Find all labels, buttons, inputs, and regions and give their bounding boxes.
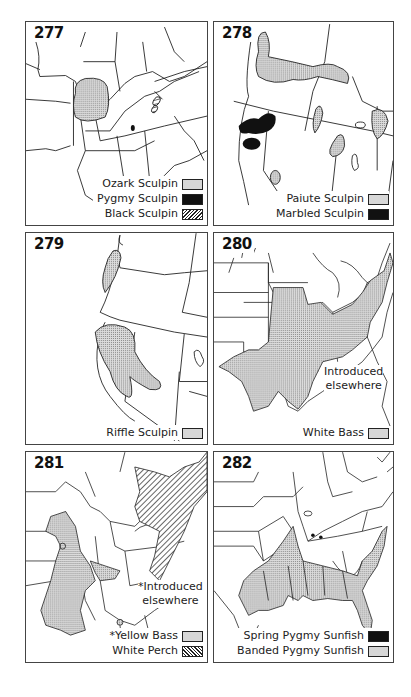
map-280 (214, 233, 393, 444)
solid-swatch-icon (182, 194, 203, 205)
map-panel-282: 282 Spring Pygmy Sunfish Banded Pygmy Su… (213, 451, 394, 663)
hatch-swatch-icon (182, 209, 203, 220)
solid-swatch-icon (368, 209, 389, 220)
legend-label: Pygmy Sculpin (97, 192, 178, 206)
legend-label: Paiute Sculpin (286, 192, 364, 206)
map-panel-277: 277 Ozark Sculpin Pygmy Sculpin Black Sc… (25, 21, 208, 226)
legend-item-black-sculpin: Black Sculpin (105, 207, 203, 221)
legend-item-paiute-sculpin: Paiute Sculpin (286, 192, 389, 206)
note-line: elsewhere (138, 594, 203, 608)
legend-label: *Yellow Bass (109, 629, 178, 643)
legend-item-yellow-bass: *Yellow Bass (109, 629, 203, 643)
map-number: 279 (32, 235, 66, 253)
map-number: 278 (220, 24, 254, 42)
legend-label: White Perch (112, 644, 178, 658)
legend-item-riffle-sculpin: Riffle Sculpin (106, 426, 203, 440)
stipple-swatch-icon (182, 428, 203, 439)
introduced-note: *Introduced elsewhere (138, 580, 203, 608)
legend-item-white-perch: White Perch (112, 644, 203, 658)
stipple-swatch-icon (182, 631, 203, 642)
legend: Ozark Sculpin Pygmy Sculpin Black Sculpi… (93, 176, 203, 221)
legend-label: Ozark Sculpin (102, 177, 178, 191)
map-panel-278: 278 Paiute Sculpin Marbled Sculpin (213, 21, 394, 226)
stipple-swatch-icon (368, 194, 389, 205)
legend: Paiute Sculpin Marbled Sculpin (272, 191, 389, 221)
hatch-swatch-icon (182, 646, 203, 657)
map-number: 277 (32, 24, 66, 42)
legend: *Yellow Bass White Perch (105, 628, 203, 658)
legend-item-ozark-sculpin: Ozark Sculpin (102, 177, 203, 191)
note-line: elsewhere (324, 379, 383, 393)
legend-item-marbled-sculpin: Marbled Sculpin (276, 207, 389, 221)
legend-label: Marbled Sculpin (276, 207, 364, 221)
legend-item-pygmy-sculpin: Pygmy Sculpin (97, 192, 203, 206)
note-line: Introduced (324, 365, 383, 379)
legend-label: Spring Pygmy Sunfish (244, 629, 364, 643)
map-panel-280: 280 Introduced elsewhere White Bass (213, 232, 394, 445)
introduced-note: Introduced elsewhere (324, 365, 383, 393)
legend-label: Black Sculpin (105, 207, 178, 221)
note-line: *Introduced (138, 580, 203, 594)
stipple-swatch-icon (368, 428, 389, 439)
map-number: 281 (32, 454, 66, 472)
legend-label: Riffle Sculpin (106, 426, 178, 440)
stipple-swatch-icon (182, 179, 203, 190)
legend-item-spring-pygmy-sunfish: Spring Pygmy Sunfish (244, 629, 389, 643)
legend: White Bass (299, 425, 389, 440)
legend-label: Banded Pygmy Sunfish (237, 644, 364, 658)
legend-item-white-bass: White Bass (303, 426, 389, 440)
map-number: 280 (220, 235, 254, 253)
stipple-swatch-icon (368, 646, 389, 657)
map-panel-279: 279 Riffle Sculpin (25, 232, 208, 445)
legend-item-banded-pygmy-sunfish: Banded Pygmy Sunfish (237, 644, 389, 658)
legend: Riffle Sculpin (102, 425, 203, 440)
map-panel-281: 281 *Introduced elsewhere *Yellow Bass W… (25, 451, 208, 663)
legend: Spring Pygmy Sunfish Banded Pygmy Sunfis… (233, 628, 389, 658)
map-279 (26, 233, 207, 444)
solid-swatch-icon (368, 631, 389, 642)
map-number: 282 (220, 454, 254, 472)
legend-label: White Bass (303, 426, 364, 440)
